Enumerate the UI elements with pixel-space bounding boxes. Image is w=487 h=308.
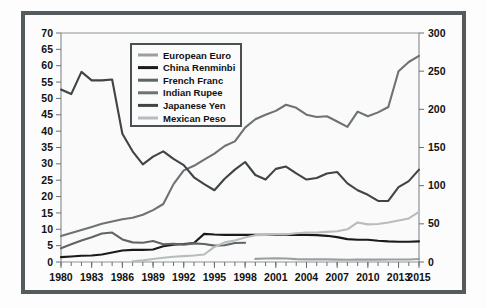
x-axis-tick-label: 1995 bbox=[203, 271, 227, 283]
legend-label-european-euro: European Euro bbox=[163, 50, 231, 61]
right-axis-tick-label: 150 bbox=[428, 141, 446, 153]
x-axis-tick-label: 2010 bbox=[356, 271, 380, 283]
x-axis-tick-label: 1989 bbox=[141, 271, 165, 283]
left-axis-tick-label: 30 bbox=[41, 157, 53, 169]
left-axis-tick-label: 60 bbox=[41, 59, 53, 71]
legend-label-french-franc: French Franc bbox=[163, 75, 223, 86]
left-axis-tick-label: 65 bbox=[41, 43, 53, 55]
chart-figure: 0510152025303540455055606570050100150200… bbox=[0, 0, 487, 308]
x-axis-tick-label: 1983 bbox=[80, 271, 104, 283]
legend-label-japanese-yen: Japanese Yen bbox=[163, 100, 226, 111]
x-axis-tick-label: 2015 bbox=[407, 271, 431, 283]
left-axis-tick-label: 55 bbox=[41, 76, 53, 88]
left-axis-tick-label: 5 bbox=[47, 239, 53, 251]
left-axis-tick-label: 10 bbox=[41, 223, 53, 235]
x-axis-tick-label: 1980 bbox=[49, 271, 73, 283]
left-axis-tick-label: 35 bbox=[41, 141, 53, 153]
right-axis-tick-label: 300 bbox=[428, 27, 446, 39]
left-axis-tick-label: 25 bbox=[41, 174, 53, 186]
legend-label-china-renminbi: China Renminbi bbox=[163, 62, 235, 73]
left-axis-tick-label: 50 bbox=[41, 92, 53, 104]
legend-label-mexican-peso: Mexican Peso bbox=[163, 113, 226, 124]
left-axis-tick-label: 70 bbox=[41, 27, 53, 39]
left-axis-tick-label: 0 bbox=[47, 256, 53, 268]
line-chart-svg: 0510152025303540455055606570050100150200… bbox=[0, 0, 487, 308]
right-axis-tick-label: 250 bbox=[428, 65, 446, 77]
x-axis-tick-label: 1992 bbox=[172, 271, 196, 283]
x-axis-tick-label: 2004 bbox=[295, 271, 319, 283]
chart-plot-wrapper: 0510152025303540455055606570050100150200… bbox=[0, 0, 487, 308]
left-axis-tick-label: 45 bbox=[41, 108, 53, 120]
left-axis-tick-label: 20 bbox=[41, 190, 53, 202]
right-axis-tick-label: 100 bbox=[428, 179, 446, 191]
right-axis-tick-label: 0 bbox=[428, 256, 434, 268]
x-axis-tick-label: 1998 bbox=[233, 271, 257, 283]
left-axis-tick-label: 15 bbox=[41, 207, 53, 219]
right-axis-tick-label: 200 bbox=[428, 103, 446, 115]
left-axis-tick-label: 40 bbox=[41, 125, 53, 137]
x-axis-tick-label: 2001 bbox=[264, 271, 288, 283]
right-axis-tick-label: 50 bbox=[428, 217, 440, 229]
x-axis-tick-label: 2007 bbox=[325, 271, 349, 283]
x-axis-tick-label: 1986 bbox=[111, 271, 135, 283]
legend-label-indian-rupee: Indian Rupee bbox=[163, 87, 223, 98]
